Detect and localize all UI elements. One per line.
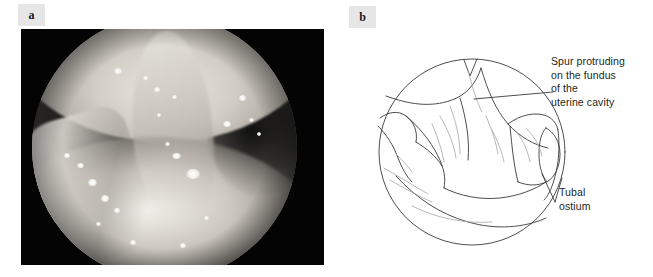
- endoscope-field-view: [32, 29, 297, 265]
- fundus-contour: [386, 68, 481, 104]
- faint-line: [450, 106, 460, 154]
- panel-b-drawing: b: [340, 0, 653, 277]
- panel-a-photograph: [21, 29, 324, 265]
- scope-outline-circle: [379, 59, 565, 245]
- cornual-left-edge: [510, 126, 518, 182]
- posterior-wall-sweep: [444, 182, 546, 199]
- scope-vignette: [32, 29, 297, 265]
- faint-line: [492, 130, 504, 162]
- left-fold-connector: [416, 142, 442, 166]
- annotation-spur-label: Spur protruding on the fundus of the ute…: [551, 55, 651, 109]
- panel-label-a: a: [18, 4, 45, 26]
- fundal-notch: [464, 59, 477, 76]
- faint-line: [396, 154, 412, 172]
- leader-line-spur: [474, 92, 553, 99]
- left-ridge-long: [406, 116, 445, 188]
- schematic-line-drawing: [340, 0, 653, 277]
- faint-line: [440, 116, 456, 158]
- spur-ridge-line: [460, 98, 469, 160]
- right-fundal-fold: [481, 68, 548, 148]
- annotation-tubal-ostium-label: Tubal ostium: [559, 186, 651, 213]
- left-wall-fold-lower: [378, 126, 412, 182]
- cornual-upper-edge: [508, 114, 558, 130]
- faint-line: [412, 206, 492, 222]
- figure-container: a: [0, 0, 653, 277]
- faint-line: [486, 116, 498, 154]
- faint-line: [384, 168, 428, 194]
